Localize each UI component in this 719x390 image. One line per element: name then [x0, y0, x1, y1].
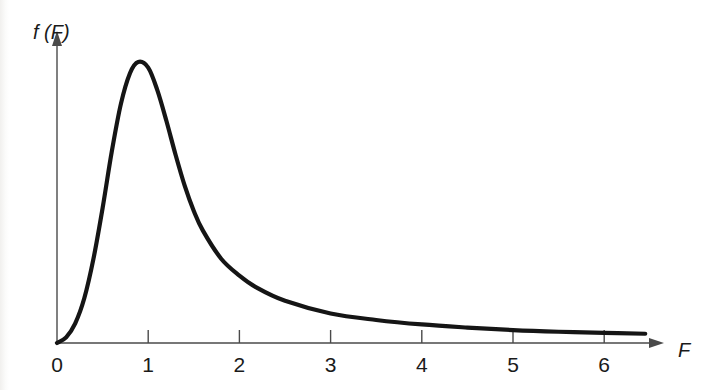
x-axis-label: F [678, 339, 692, 361]
x-axis-arrowhead [649, 338, 664, 348]
x-tick-label-5: 5 [507, 353, 519, 376]
x-tick-label-4: 4 [416, 353, 428, 376]
x-tick-label-2: 2 [234, 353, 246, 376]
x-tick-label-1: 1 [142, 353, 154, 376]
plot-area: 0 1 2 3 4 5 6 f (F) F [0, 0, 719, 390]
x-tick-label-0: 0 [51, 353, 63, 376]
x-tick-label-3: 3 [325, 353, 337, 376]
x-tick-label-6: 6 [598, 353, 610, 376]
distribution-curve [57, 62, 645, 343]
x-axis-tick-labels: 0 1 2 3 4 5 6 [51, 353, 610, 376]
y-axis [52, 31, 62, 343]
y-axis-label: f (F) [33, 21, 70, 43]
figure-canvas: 0 1 2 3 4 5 6 f (F) F [0, 0, 719, 390]
